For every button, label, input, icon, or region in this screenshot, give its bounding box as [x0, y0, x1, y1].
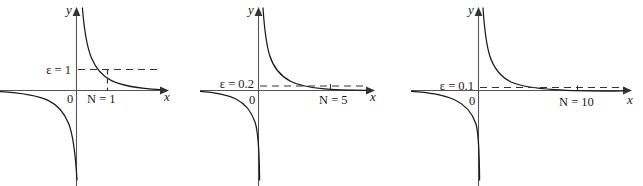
y-axis-label: y [466, 2, 474, 17]
origin-label: 0 [67, 92, 73, 106]
graph-panel-2: y x ε = 0.2 0 N = 5 [200, 0, 425, 186]
hyperbola-upper-branch [483, 8, 623, 91]
panel-2-plot: y x ε = 0.2 0 N = 5 [200, 0, 425, 186]
graph-panel-1: y x ε = 1 0 N = 1 [0, 0, 215, 186]
panel-1-plot: y x ε = 1 0 N = 1 [0, 0, 215, 186]
origin-label: 0 [249, 93, 255, 107]
origin-label: 0 [469, 94, 475, 108]
y-axis [255, 7, 263, 186]
x-axis-label: x [163, 89, 170, 104]
x-axis-label: x [626, 92, 633, 107]
y-axis [73, 7, 81, 186]
graph-panel-3: y x ε = 0.1 0 N = 10 [411, 0, 643, 186]
n-label: N = 1 [87, 92, 116, 106]
y-axis-label: y [246, 2, 254, 17]
x-axis-label: x [369, 89, 376, 104]
n-label: N = 5 [319, 93, 348, 107]
limit-definition-figure: y x ε = 1 0 N = 1 [0, 0, 643, 186]
epsilon-label: ε = 0.1 [440, 79, 474, 93]
y-axis-label: y [64, 2, 72, 17]
panel-3-plot: y x ε = 0.1 0 N = 10 [411, 0, 643, 186]
hyperbola-upper-branch [82, 8, 160, 90]
hyperbola-lower-branch [0, 92, 77, 180]
hyperbola-upper-branch [263, 8, 366, 90]
epsilon-label: ε = 1 [46, 63, 71, 77]
n-label: N = 10 [559, 95, 594, 109]
y-axis [475, 7, 483, 186]
epsilon-label: ε = 0.2 [220, 77, 254, 91]
